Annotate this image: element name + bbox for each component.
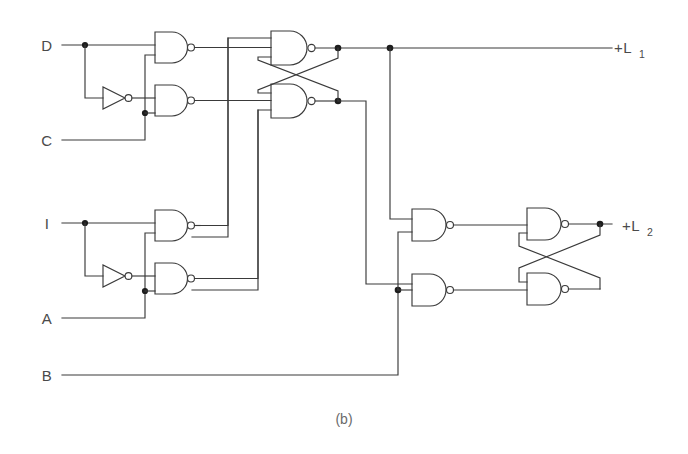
nand-latch1-bot-bubble [308, 97, 315, 104]
nand-c-body [155, 85, 187, 116]
wire-nand-a-riser-to-latch1-bot [192, 110, 271, 290]
output-label-l1-subscript: 1 [639, 48, 645, 60]
inverter-i-body [103, 265, 125, 287]
nand-a-body [155, 263, 188, 294]
inverter-d-body [103, 87, 125, 109]
nand-mix-bot-bubble [447, 287, 454, 294]
output-label-l2-subscript: 2 [647, 226, 653, 238]
wire-i-to-inverter [85, 223, 103, 276]
wire-nand-a-out-riser [195, 110, 259, 279]
nand-d-bubble [188, 44, 195, 51]
nand-d-body [155, 32, 188, 63]
figure-caption: (b) [335, 411, 352, 427]
nand-i-body [155, 210, 188, 241]
inverter-i-bubble [125, 273, 132, 280]
nand-latch1-top-bubble [308, 44, 315, 51]
schematic-canvas: D C I A B +L 1 +L 2 (b) [0, 0, 688, 454]
output-label-l2: +L [622, 217, 640, 234]
input-label-c: C [41, 132, 52, 149]
input-label-i: I [45, 215, 50, 232]
nand-latch2-bot-body [527, 273, 561, 305]
logic-schematic-figure: D C I A B +L 1 +L 2 (b) [0, 0, 688, 454]
nand-latch2-bot-bubble [562, 286, 569, 293]
inverter-d-bubble [125, 95, 132, 102]
wire-b-input [62, 290, 398, 375]
input-label-a: A [42, 310, 53, 327]
nand-a-bubble [188, 275, 195, 282]
input-label-b: B [42, 367, 53, 384]
wire-latch2-cross-bot-to-top [519, 233, 600, 289]
wire-latch1-top-to-mix-top [390, 48, 412, 219]
nand-latch2-top-body [527, 208, 561, 240]
nand-latch1-bot-body [271, 84, 307, 118]
nand-latch1-top-body [271, 31, 307, 65]
nand-c-bubble [188, 97, 195, 104]
output-label-l1: +L [614, 39, 632, 56]
wire-d-to-inverter [85, 45, 103, 98]
nand-i-bubble [188, 222, 195, 229]
wire-b-to-mix-top [398, 232, 412, 290]
wire-nand-i-riser-to-latch1-top [192, 38, 271, 237]
input-label-d: D [41, 37, 52, 54]
nand-mix-bot-body [412, 274, 446, 306]
nand-mix-top-bubble [447, 222, 454, 229]
wire-latch1-bot-to-mix-bot [338, 101, 412, 284]
wire-nand-i-out-riser [195, 38, 229, 226]
nand-latch2-top-bubble [562, 221, 569, 228]
nand-mix-top-body [412, 209, 446, 241]
